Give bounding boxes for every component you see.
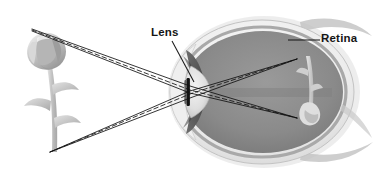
lens-label: Lens <box>151 27 179 39</box>
retina-label: Retina <box>321 33 357 45</box>
ray-bottom-solid-1 <box>50 59 297 152</box>
eye-diagram-canvas: Lens Retina <box>0 0 377 176</box>
lens-leader-line <box>172 41 194 82</box>
light-ray-layer <box>0 0 377 176</box>
